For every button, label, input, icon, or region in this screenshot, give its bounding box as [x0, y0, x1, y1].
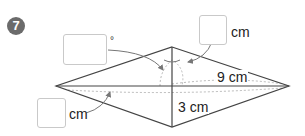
problem-number-badge: 7: [7, 17, 25, 35]
top-length-answer-box[interactable]: [199, 15, 227, 45]
top-length-unit-label: cm: [231, 25, 250, 39]
degree-unit-label: °: [110, 36, 114, 46]
left-length-unit-label: cm: [69, 107, 88, 121]
figure-stage: 7 ° cm cm 9 cm 3 cm: [0, 0, 305, 136]
dashed-guide-lower-left: [68, 88, 283, 93]
arrow-left-length-box: [86, 92, 110, 113]
left-length-answer-box[interactable]: [37, 98, 66, 128]
long-half-diagonal-label: 9 cm: [216, 70, 248, 84]
angle-answer-box[interactable]: [63, 34, 107, 65]
short-half-diagonal-label: 3 cm: [177, 100, 209, 114]
